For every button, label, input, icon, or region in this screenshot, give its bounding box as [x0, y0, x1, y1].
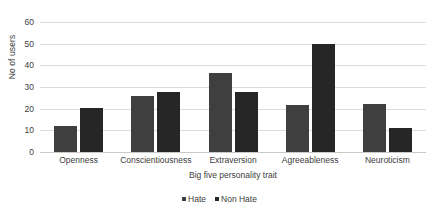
x-axis-tick-labels: OpennessConscientiousnessExtraversionAgr… — [40, 155, 426, 165]
bar-groups — [40, 22, 426, 152]
legend-swatch-icon — [215, 197, 219, 201]
bar[interactable] — [157, 92, 180, 152]
bar-group — [117, 22, 194, 152]
bar[interactable] — [131, 96, 154, 152]
bar[interactable] — [363, 104, 386, 152]
axis-baseline — [40, 152, 426, 153]
bar-group — [272, 22, 349, 152]
bar-group — [40, 22, 117, 152]
x-tick-label: Agreeableness — [272, 155, 349, 165]
legend-label: Non Hate — [221, 194, 257, 204]
bar-group — [349, 22, 426, 152]
bar[interactable] — [80, 108, 103, 152]
bar[interactable] — [312, 44, 335, 152]
legend-item[interactable]: Non Hate — [215, 194, 257, 204]
y-tick-label: 30 — [6, 83, 34, 92]
bar[interactable] — [209, 73, 232, 152]
y-tick-label: 10 — [6, 126, 34, 135]
chart-legend: HateNon Hate — [0, 194, 439, 204]
x-tick-label: Neuroticism — [349, 155, 426, 165]
legend-label: Hate — [188, 194, 206, 204]
bar-chart: No of users 0102030405060 OpennessConsci… — [0, 0, 439, 215]
x-axis-title: Big five personality trait — [40, 170, 426, 180]
bar[interactable] — [389, 128, 412, 152]
y-axis-ticks: 0102030405060 — [0, 22, 34, 152]
y-tick-label: 60 — [6, 18, 34, 27]
bar-group — [194, 22, 271, 152]
legend-swatch-icon — [182, 197, 186, 201]
y-tick-label: 20 — [6, 105, 34, 114]
bar[interactable] — [286, 105, 309, 152]
legend-item[interactable]: Hate — [182, 194, 206, 204]
bar[interactable] — [235, 92, 258, 152]
x-tick-label: Conscientiousness — [117, 155, 194, 165]
x-tick-label: Extraversion — [194, 155, 271, 165]
y-tick-label: 40 — [6, 61, 34, 70]
bar[interactable] — [54, 126, 77, 152]
y-tick-label: 0 — [6, 148, 34, 157]
y-tick-label: 50 — [6, 40, 34, 49]
x-tick-label: Openness — [40, 155, 117, 165]
